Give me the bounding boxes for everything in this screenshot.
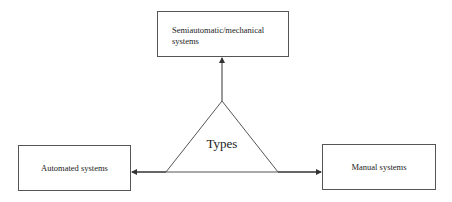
center-label: Types: [197, 136, 247, 152]
node-label: Manual systems: [323, 162, 435, 173]
node-label: Automated systems: [19, 163, 130, 174]
node-label: Semiautomatic/mechanical systems: [172, 25, 287, 46]
node-manual-systems: Manual systems: [322, 144, 436, 190]
node-semiautomatic-mechanical-systems: Semiautomatic/mechanical systems: [157, 11, 289, 57]
node-automated-systems: Automated systems: [18, 145, 131, 191]
